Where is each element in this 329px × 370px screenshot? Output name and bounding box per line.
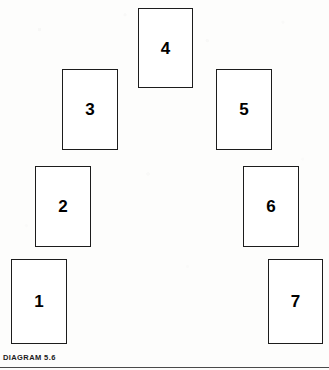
diagram-card-label: 5 [239, 101, 248, 118]
diagram-card-1[interactable]: 1 [11, 259, 67, 344]
diagram-card-2[interactable]: 2 [35, 166, 91, 247]
figure-caption: DIAGRAM 5.6 [3, 353, 56, 362]
diagram-card-label: 7 [291, 293, 300, 310]
diagram-card-label: 2 [58, 198, 67, 215]
diagram-card-4[interactable]: 4 [138, 8, 193, 88]
diagram-card-7[interactable]: 7 [268, 259, 323, 344]
diagram-card-label: 6 [266, 198, 275, 215]
diagram-card-3[interactable]: 3 [62, 69, 118, 150]
diagram-page: 1 2 3 4 5 6 7 DIAGRAM 5.6 [0, 0, 329, 370]
diagram-card-6[interactable]: 6 [243, 166, 299, 247]
diagram-card-label: 1 [34, 293, 43, 310]
caption-divider [0, 367, 329, 368]
diagram-card-5[interactable]: 5 [216, 69, 272, 150]
diagram-card-label: 3 [85, 101, 94, 118]
figure-caption-block: DIAGRAM 5.6 [0, 350, 329, 370]
diagram-canvas: 1 2 3 4 5 6 7 [0, 0, 329, 350]
diagram-card-label: 4 [161, 40, 170, 57]
